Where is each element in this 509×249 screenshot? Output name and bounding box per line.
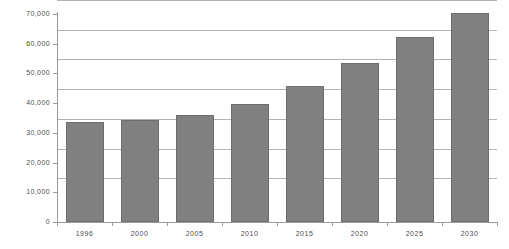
x-axis-tick-mark — [332, 222, 333, 226]
bar — [341, 63, 379, 222]
bar — [396, 37, 434, 222]
y-axis-tick: 30,000 — [0, 129, 50, 137]
x-axis-tick-mark — [167, 222, 168, 226]
y-axis-tick: 0 — [0, 218, 50, 226]
bar — [451, 13, 489, 222]
y-axis-tick-label: 70,000 — [2, 10, 50, 17]
x-axis-tick-label: 2015 — [280, 230, 330, 237]
x-axis-tick-label: 2025 — [390, 230, 440, 237]
x-axis-tick-label: 2020 — [335, 230, 385, 237]
x-axis-tick-label: 2030 — [445, 230, 495, 237]
x-axis-tick-mark — [497, 222, 498, 226]
x-axis-tick-mark — [277, 222, 278, 226]
y-axis-tick-label: 20,000 — [2, 159, 50, 166]
y-axis-tick-label: 10,000 — [2, 188, 50, 195]
y-axis-tick-label: 40,000 — [2, 99, 50, 106]
x-axis-tick-label: 2005 — [170, 230, 220, 237]
y-axis-tick-label: 50,000 — [2, 69, 50, 76]
bar — [286, 86, 324, 222]
x-axis-tick-label: 1996 — [60, 230, 110, 237]
bar — [231, 104, 269, 222]
bar-chart: 010,00020,00030,00040,00050,00060,00070,… — [0, 0, 509, 249]
x-axis-tick-label: 2010 — [225, 230, 275, 237]
bar — [176, 115, 214, 222]
y-axis-tick: 50,000 — [0, 69, 50, 77]
y-axis-tick-label: 60,000 — [2, 40, 50, 47]
bar — [66, 122, 104, 222]
y-axis-tick-label: 30,000 — [2, 129, 50, 136]
y-axis-tick: 40,000 — [0, 99, 50, 107]
y-axis-tick: 20,000 — [0, 159, 50, 167]
y-axis-tick: 60,000 — [0, 40, 50, 48]
gridline — [57, 0, 497, 1]
plot-area — [57, 14, 497, 222]
x-axis-tick-mark — [442, 222, 443, 226]
x-axis-tick-label: 2000 — [115, 230, 165, 237]
bar — [121, 120, 159, 222]
y-axis-tick: 70,000 — [0, 10, 50, 18]
y-axis-tick-label: 0 — [2, 218, 50, 225]
y-axis-tick: 10,000 — [0, 188, 50, 196]
x-axis-tick-mark — [387, 222, 388, 226]
x-axis-tick-mark — [112, 222, 113, 226]
x-axis-tick-mark — [57, 222, 58, 226]
x-axis-tick-mark — [222, 222, 223, 226]
